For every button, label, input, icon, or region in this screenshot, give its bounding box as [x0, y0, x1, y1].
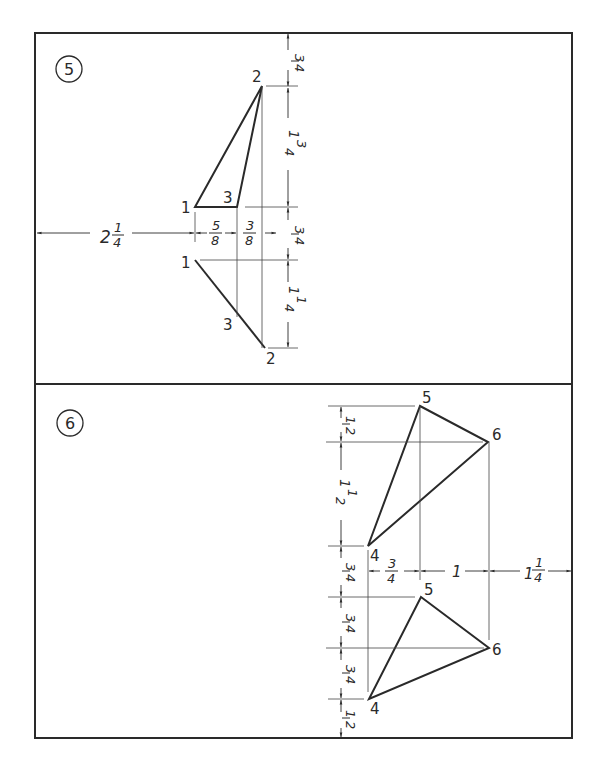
- point-label: 2: [266, 350, 276, 368]
- svg-text:1: 1: [535, 555, 543, 570]
- svg-text:8: 8: [245, 233, 253, 248]
- svg-text:3: 3: [292, 226, 307, 234]
- dim-h3: 1 1 4: [524, 555, 545, 585]
- problem-number: 6: [65, 414, 75, 433]
- point-label: 4: [370, 547, 380, 565]
- point-label: 3: [223, 316, 233, 334]
- svg-text:4: 4: [292, 64, 307, 72]
- dim-gap-views: 3 4: [291, 226, 307, 245]
- svg-text:8: 8: [211, 233, 219, 248]
- dim-v6: 1 2: [342, 710, 358, 729]
- extension-lines: [326, 406, 489, 699]
- point-label: 6: [492, 641, 502, 659]
- svg-text:4: 4: [292, 237, 307, 245]
- svg-text:1: 1: [343, 416, 358, 424]
- point-label: 5: [424, 581, 434, 599]
- svg-text:3: 3: [246, 218, 254, 233]
- svg-text:4: 4: [343, 625, 358, 633]
- svg-text:3: 3: [343, 563, 358, 571]
- point-label: 1: [181, 199, 191, 217]
- dim-1-to-3: 5 8: [209, 218, 222, 248]
- dim-v3: 3 4: [342, 563, 358, 582]
- dim-3-to-2: 3 8: [243, 218, 256, 248]
- svg-text:1: 1: [524, 565, 534, 583]
- svg-text:2: 2: [333, 497, 348, 505]
- svg-text:4: 4: [113, 235, 121, 250]
- point-label: 6: [492, 426, 502, 444]
- dim-h2: 1: [452, 563, 462, 581]
- svg-text:3: 3: [343, 665, 358, 673]
- sheet-frame: [35, 33, 572, 738]
- svg-text:3: 3: [343, 614, 358, 622]
- dim-v4: 3 4: [342, 614, 358, 633]
- svg-text:4: 4: [282, 304, 297, 312]
- svg-text:2: 2: [343, 721, 358, 729]
- point-label: 3: [223, 189, 233, 207]
- svg-text:4: 4: [387, 571, 395, 586]
- point-label: 1: [181, 254, 191, 272]
- svg-text:1: 1: [343, 710, 358, 718]
- dim-v5: 3 4: [342, 665, 358, 684]
- svg-text:4: 4: [343, 676, 358, 684]
- orthographic-drawing-sheet: 5 2 1 3 1 3 2: [0, 0, 606, 767]
- dim-left-offset: 2 1 4: [100, 220, 124, 250]
- svg-text:1: 1: [286, 286, 302, 295]
- svg-text:1: 1: [286, 130, 302, 139]
- dim-v1: 1 2: [342, 416, 358, 435]
- dim-v2: 1 1 2: [333, 479, 360, 505]
- top-view-triangle: [368, 406, 488, 546]
- svg-text:1: 1: [337, 479, 353, 488]
- svg-text:4: 4: [534, 570, 542, 585]
- svg-text:4: 4: [282, 148, 297, 156]
- svg-text:4: 4: [343, 574, 358, 582]
- point-label: 5: [422, 389, 432, 407]
- front-view-edge: [195, 260, 265, 348]
- dim-vertical-front: 1 1 4: [282, 286, 309, 312]
- svg-text:2: 2: [100, 227, 111, 247]
- dim-h1: 3 4: [385, 556, 398, 586]
- svg-text:2: 2: [343, 427, 358, 435]
- svg-text:1: 1: [452, 563, 462, 581]
- problem-5: 5 2 1 3 1 3 2: [37, 34, 309, 368]
- dim-vertical-top: 1 3 4: [282, 130, 309, 156]
- problem-6: 6 5 6 4 5 6 4: [57, 389, 571, 737]
- problem-number: 5: [64, 60, 74, 79]
- svg-text:1: 1: [114, 220, 122, 235]
- point-label: 4: [370, 700, 380, 718]
- dim-top-margin: 3 4: [291, 54, 307, 72]
- svg-text:5: 5: [212, 218, 220, 233]
- svg-text:3: 3: [388, 556, 396, 571]
- point-label: 2: [252, 68, 262, 86]
